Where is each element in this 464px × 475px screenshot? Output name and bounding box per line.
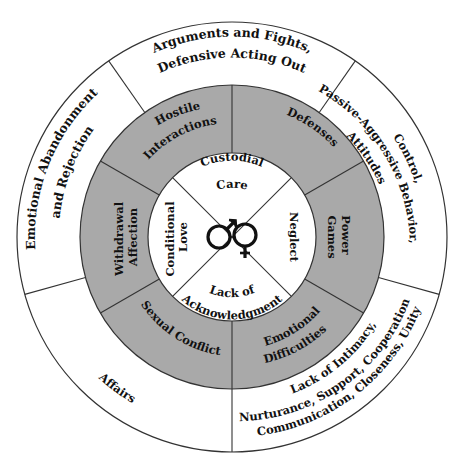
svg-text:Power Games: Power Games [325, 215, 353, 258]
svg-text:Withdrawal Affection: Withdrawal Affection [112, 198, 140, 277]
svg-text:Care: Care [215, 177, 249, 193]
inner-label-neglect: Neglect [287, 212, 301, 263]
relationship-wheel-diagram: Arguments and Fights, Defensive Acting O… [0, 0, 464, 475]
middle-label-withdrawal-affection: Withdrawal Affection [112, 198, 140, 277]
svg-text:Neglect: Neglect [287, 212, 301, 263]
middle-label-power-games: Power Games [325, 215, 353, 258]
